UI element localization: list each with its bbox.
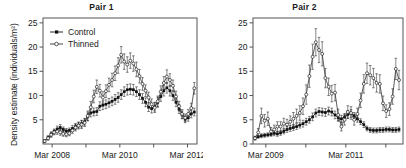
series-thinned <box>254 29 401 140</box>
x-tick-label: Mar 2012 <box>170 150 203 160</box>
y-tick-label: 20 <box>238 42 248 52</box>
y-tick-label: 0 <box>243 139 248 149</box>
y-tick-label: 15 <box>238 66 248 76</box>
y-tick-label: 20 <box>28 42 38 52</box>
y-tick-label: 15 <box>28 66 38 76</box>
plot-area-pair-2: 0510152025Mar 2009Mar 2011 <box>203 0 406 168</box>
open-circle-icon <box>55 42 59 46</box>
panel-pair-2: Pair 2 Density estimate (individuals/m²)… <box>203 0 406 168</box>
series-control <box>254 107 401 139</box>
figure-two-panel-density-plot: Pair 1 Density estimate (individuals/m²)… <box>0 0 406 168</box>
y-tick-label: 5 <box>33 115 38 125</box>
y-tick-label: 5 <box>243 115 248 125</box>
filled-square-icon <box>55 30 58 33</box>
panel-pair-1: Pair 1 Density estimate (individuals/m²)… <box>0 0 203 168</box>
x-tick-label: Mar 2010 <box>102 150 138 160</box>
x-tick-label: Mar 2011 <box>328 150 364 160</box>
y-tick-label: 10 <box>28 91 38 101</box>
x-tick-label: Mar 2008 <box>34 150 70 160</box>
y-tick-label: 25 <box>28 18 38 28</box>
legend: ControlThinned <box>50 27 99 49</box>
y-tick-label: 10 <box>238 91 248 101</box>
y-tick-label: 25 <box>238 18 248 28</box>
x-tick-label: Mar 2009 <box>248 150 284 160</box>
legend-label-control: Control <box>68 27 96 37</box>
plot-area-pair-1: 510152025Mar 2008Mar 2010Mar 2012Control… <box>0 0 203 168</box>
legend-label-thinned: Thinned <box>68 39 99 49</box>
